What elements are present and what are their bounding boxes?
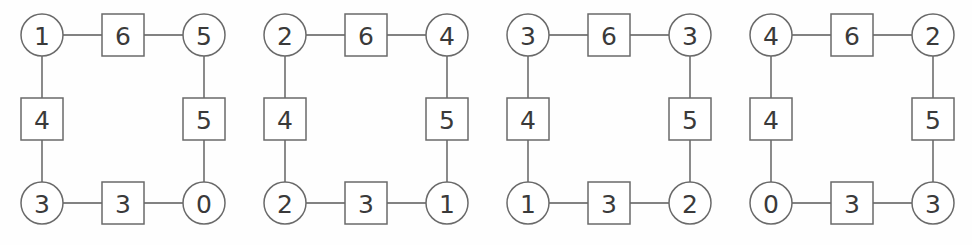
vertex-label-top-left: 2 [277, 22, 293, 51]
edge-weight-label-bottom: 3 [601, 190, 617, 219]
edge-weight-top: 6 [588, 14, 630, 56]
edge-weight-right: 5 [912, 98, 954, 140]
vertex-label-bottom-right: 1 [439, 190, 455, 219]
vertex-top-left: 4 [750, 14, 792, 56]
graph-diagram-1: 63451530 [0, 0, 243, 245]
vertex-top-right: 2 [912, 14, 954, 56]
vertex-label-bottom-left: 3 [34, 190, 50, 219]
edge-weight-bottom: 3 [102, 182, 144, 224]
edge-weight-label-right: 5 [439, 106, 455, 135]
vertex-label-top-right: 5 [196, 22, 212, 51]
edge-weight-left: 4 [507, 98, 549, 140]
edge-weight-label-left: 4 [277, 106, 293, 135]
figure-root: 63451530634524216345331263454203 [0, 0, 972, 245]
vertex-top-left: 3 [507, 14, 549, 56]
vertex-bottom-right: 3 [912, 182, 954, 224]
edge-weight-bottom: 3 [831, 182, 873, 224]
edge-weight-left: 4 [21, 98, 63, 140]
vertex-label-top-right: 2 [925, 22, 941, 51]
vertex-label-top-left: 4 [763, 22, 779, 51]
vertex-label-bottom-right: 3 [925, 190, 941, 219]
vertex-label-top-left: 1 [34, 22, 50, 51]
vertex-top-right: 5 [183, 14, 225, 56]
vertex-bottom-left: 3 [21, 182, 63, 224]
vertex-top-left: 1 [21, 14, 63, 56]
edge-weight-label-bottom: 3 [115, 190, 131, 219]
vertex-bottom-right: 2 [669, 182, 711, 224]
vertex-label-bottom-left: 0 [763, 190, 779, 219]
vertex-top-right: 4 [426, 14, 468, 56]
edge-weight-label-bottom: 3 [358, 190, 374, 219]
graph-diagram-2: 63452421 [243, 0, 486, 245]
edge-weight-label-left: 4 [520, 106, 536, 135]
vertex-label-bottom-right: 0 [196, 190, 212, 219]
edge-weight-bottom: 3 [588, 182, 630, 224]
graph-diagram-4: 63454203 [729, 0, 972, 245]
edge-weight-label-right: 5 [925, 106, 941, 135]
graph-diagram-3: 63453312 [486, 0, 729, 245]
vertex-label-bottom-left: 2 [277, 190, 293, 219]
vertex-label-top-right: 4 [439, 22, 455, 51]
edge-weight-label-top: 6 [601, 22, 617, 51]
edge-weight-right: 5 [183, 98, 225, 140]
edge-weight-label-top: 6 [844, 22, 860, 51]
vertex-bottom-right: 0 [183, 182, 225, 224]
edge-weight-label-right: 5 [682, 106, 698, 135]
edge-weight-right: 5 [669, 98, 711, 140]
vertex-bottom-left: 0 [750, 182, 792, 224]
edge-weight-bottom: 3 [345, 182, 387, 224]
edge-weight-label-left: 4 [763, 106, 779, 135]
edge-weight-label-top: 6 [115, 22, 131, 51]
edge-weight-top: 6 [345, 14, 387, 56]
edge-weight-label-top: 6 [358, 22, 374, 51]
edge-weight-label-bottom: 3 [844, 190, 860, 219]
vertex-label-bottom-right: 2 [682, 190, 698, 219]
vertex-bottom-left: 1 [507, 182, 549, 224]
vertex-label-top-right: 3 [682, 22, 698, 51]
vertex-label-bottom-left: 1 [520, 190, 536, 219]
edge-weight-label-right: 5 [196, 106, 212, 135]
edge-weight-top: 6 [102, 14, 144, 56]
edge-weight-left: 4 [750, 98, 792, 140]
vertex-top-right: 3 [669, 14, 711, 56]
vertex-bottom-left: 2 [264, 182, 306, 224]
edge-weight-label-left: 4 [34, 106, 50, 135]
vertex-bottom-right: 1 [426, 182, 468, 224]
edge-weight-right: 5 [426, 98, 468, 140]
vertex-top-left: 2 [264, 14, 306, 56]
vertex-label-top-left: 3 [520, 22, 536, 51]
edge-weight-top: 6 [831, 14, 873, 56]
edge-weight-left: 4 [264, 98, 306, 140]
